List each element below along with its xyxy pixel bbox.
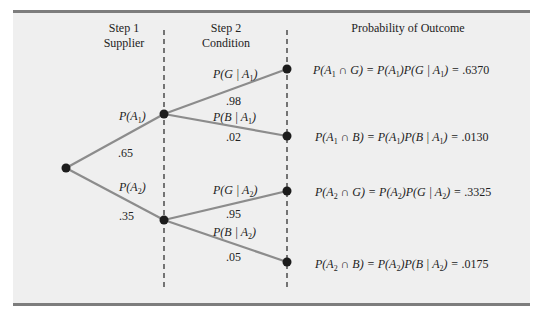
label-p-g-a1: P(G | A1): [213, 67, 257, 86]
leaf-a2-b: [283, 258, 292, 267]
label-text: ): [142, 109, 146, 123]
outcome-probability: .6370: [462, 63, 489, 77]
value-a2: .35: [119, 209, 134, 223]
label-p-b-a2: P(B | A2): [213, 225, 256, 244]
label-text: ): [142, 180, 146, 194]
formula-text: )P(G | A: [402, 185, 442, 199]
outcome-probability: .0175: [462, 257, 489, 271]
header-step2-line1: Step 2: [186, 21, 266, 36]
label-text: ): [253, 67, 257, 81]
label-text: P(G | A: [213, 183, 249, 197]
header-outcome: Probability of Outcome: [318, 21, 498, 36]
node-a2: [160, 216, 169, 225]
header-step1-line2: Supplier: [84, 36, 164, 51]
formula-text: )P(B | A: [400, 257, 439, 271]
value-b-a2: .05: [226, 250, 241, 264]
header-step2: Step 2 Condition: [186, 21, 266, 51]
value-a1: .65: [118, 146, 133, 160]
node-a1: [160, 110, 169, 119]
formula-text: ) =: [444, 63, 462, 77]
formula-text: P(A: [315, 257, 334, 271]
formula-text: )P(G | A: [400, 63, 440, 77]
formula-text: ) =: [443, 257, 461, 271]
header-outcome-text: Probability of Outcome: [318, 21, 498, 36]
branch-a2: [66, 168, 164, 220]
leaf-a1-g: [283, 65, 292, 74]
header-step1-line1: Step 1: [84, 21, 164, 36]
formula-text: P(A: [313, 63, 332, 77]
label-text: P(: [119, 109, 130, 123]
formula-text: ∩ B) = P(A: [338, 257, 397, 271]
header-step1: Step 1 Supplier: [84, 21, 164, 51]
formula-text: )P(B | A: [400, 130, 439, 144]
label-p-a1: P(A1): [119, 109, 146, 128]
branch-a1: [66, 114, 164, 168]
leaf-a1-b: [283, 132, 292, 141]
label-text: P(B | A: [213, 110, 248, 124]
outcome-a2-g: P(A2 ∩ G) = P(A2)P(G | A2) = .3325: [315, 185, 491, 204]
formula-text: ) =: [446, 185, 464, 199]
label-p-b-a1: P(B | A1): [213, 110, 256, 129]
label-p-a2: P(A2): [119, 180, 146, 199]
value-b-a1: .02: [226, 130, 241, 144]
label-text: A: [130, 180, 137, 194]
value-g-a2: .95: [226, 207, 241, 221]
label-text: P(B | A: [213, 225, 248, 239]
formula-text: P(A: [315, 130, 334, 144]
outcome-probability: .0130: [462, 130, 489, 144]
label-text: A: [130, 109, 137, 123]
label-p-g-a2: P(G | A2): [213, 183, 257, 202]
outcome-probability: .3325: [464, 185, 491, 199]
label-text: P(: [119, 180, 130, 194]
value-g-a1: .98: [226, 94, 241, 108]
label-text: P(G | A: [213, 67, 249, 81]
formula-text: ) =: [443, 130, 461, 144]
formula-text: ∩ G) = P(A: [338, 185, 398, 199]
root-node: [62, 164, 71, 173]
label-text: ): [252, 110, 256, 124]
label-text: ): [252, 225, 256, 239]
label-text: ): [253, 183, 257, 197]
outcome-a1-g: P(A1 ∩ G) = P(A1)P(G | A1) = .6370: [313, 63, 489, 82]
formula-text: ∩ G) = P(A: [336, 63, 396, 77]
formula-text: P(A: [315, 185, 334, 199]
leaf-a2-g: [283, 187, 292, 196]
outcome-a1-b: P(A1 ∩ B) = P(A1)P(B | A1) = .0130: [315, 130, 489, 149]
header-step2-line2: Condition: [186, 36, 266, 51]
formula-text: ∩ B) = P(A: [338, 130, 397, 144]
outcome-a2-b: P(A2 ∩ B) = P(A2)P(B | A2) = .0175: [315, 257, 489, 276]
